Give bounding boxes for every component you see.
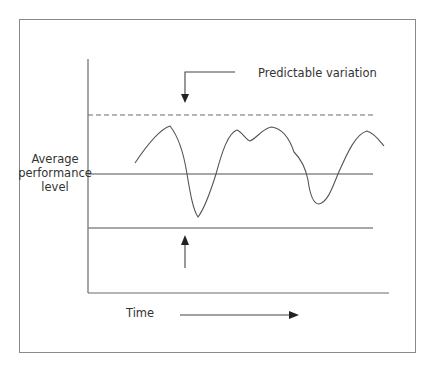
- y-axis-label-line-2: performance: [18, 166, 92, 180]
- time-arrow-icon: [180, 311, 299, 319]
- y-axis-label-line-1: Average: [31, 152, 78, 166]
- predictable-variation-diagram: Predictable variation Average performanc…: [0, 0, 431, 370]
- y-axis-label-line-3: level: [41, 180, 68, 194]
- arrow-up-icon: [181, 235, 189, 268]
- arrow-down-icon: [181, 72, 235, 103]
- title-label: Predictable variation: [258, 66, 377, 80]
- x-axis-label: Time: [125, 306, 154, 320]
- performance-curve: [135, 126, 384, 217]
